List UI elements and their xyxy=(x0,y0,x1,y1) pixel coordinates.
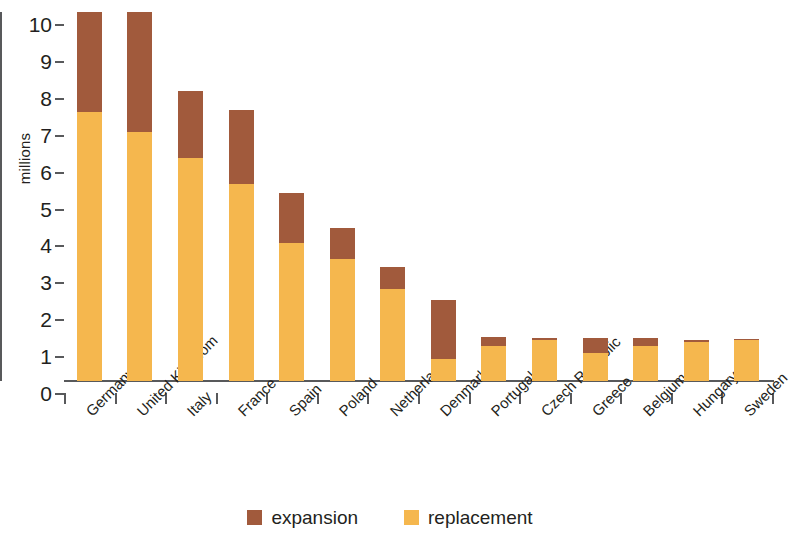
bar-poland[interactable] xyxy=(330,12,355,381)
bar-segment-replacement xyxy=(734,340,759,381)
y-axis-tick-label: 2 xyxy=(40,309,52,330)
y-axis-tick xyxy=(55,98,64,100)
y-axis-tick-label: 7 xyxy=(40,124,52,145)
bar-segment-expansion xyxy=(77,12,102,112)
y-axis-tick-label: 9 xyxy=(40,50,52,71)
legend-label-replacement: replacement xyxy=(428,508,533,527)
bar-portugal[interactable] xyxy=(481,12,506,381)
y-axis-tick xyxy=(55,319,64,321)
y-axis-tick-label: 0 xyxy=(40,383,52,404)
y-axis-tick xyxy=(55,172,64,174)
y-axis-tick xyxy=(55,24,64,26)
bar-segment-replacement xyxy=(77,112,102,381)
y-axis-tick-label: 4 xyxy=(40,235,52,256)
bar-segment-replacement xyxy=(178,158,203,381)
y-axis-line xyxy=(0,12,2,381)
bar-segment-replacement xyxy=(684,342,709,381)
x-axis-tick xyxy=(64,393,66,404)
y-axis-tick-label: 8 xyxy=(40,87,52,108)
bar-segment-expansion xyxy=(229,110,254,184)
bar-segment-expansion xyxy=(380,267,405,289)
x-axis-label-italy: Italy xyxy=(184,389,214,419)
legend-label-expansion: expansion xyxy=(271,508,358,527)
bar-segment-replacement xyxy=(380,289,405,381)
bar-segment-replacement xyxy=(532,340,557,381)
legend-swatch-expansion xyxy=(247,510,262,525)
bar-segment-replacement xyxy=(330,259,355,381)
y-axis-tick-label: 6 xyxy=(40,161,52,182)
y-axis-tick-label: 3 xyxy=(40,272,52,293)
bar-segment-expansion xyxy=(279,193,304,243)
bar-spain[interactable] xyxy=(279,12,304,381)
legend-item-expansion[interactable]: expansion xyxy=(247,508,358,527)
bar-segment-expansion xyxy=(532,338,557,341)
y-axis-tick xyxy=(55,135,64,137)
bar-united-kingdom[interactable] xyxy=(127,12,152,381)
bar-segment-expansion xyxy=(127,12,152,132)
y-axis-tick xyxy=(55,282,64,284)
plot-area: 012345678910GermanyUnited KingdomItalyFr… xyxy=(64,12,772,381)
chart-legend: expansionreplacement xyxy=(0,508,780,527)
bar-segment-replacement xyxy=(229,184,254,381)
bar-segment-replacement xyxy=(431,359,456,381)
y-axis-tick xyxy=(55,393,64,395)
bar-segment-replacement xyxy=(127,132,152,381)
y-axis-tick-label: 10 xyxy=(29,14,52,35)
bar-segment-expansion xyxy=(431,300,456,359)
legend-item-replacement[interactable]: replacement xyxy=(404,508,533,527)
bar-segment-expansion xyxy=(178,91,203,157)
bar-segment-expansion xyxy=(481,337,506,346)
bar-italy[interactable] xyxy=(178,12,203,381)
bar-segment-expansion xyxy=(633,338,658,346)
bar-hungary[interactable] xyxy=(684,12,709,381)
bar-segment-replacement xyxy=(481,346,506,381)
bar-germany[interactable] xyxy=(77,12,102,381)
bar-netherlands[interactable] xyxy=(380,12,405,381)
bar-segment-replacement xyxy=(633,346,658,381)
bar-greece[interactable] xyxy=(583,12,608,381)
bar-sweden[interactable] xyxy=(734,12,759,381)
bar-segment-expansion xyxy=(684,340,709,342)
y-axis-tick-label: 5 xyxy=(40,198,52,219)
legend-swatch-replacement xyxy=(404,510,419,525)
bar-belgium[interactable] xyxy=(633,12,658,381)
y-axis-tick xyxy=(55,209,64,211)
bar-segment-replacement xyxy=(279,243,304,381)
bar-france[interactable] xyxy=(229,12,254,381)
x-axis-tick xyxy=(216,393,218,404)
y-axis-tick-label: 1 xyxy=(40,346,52,367)
bar-denmark[interactable] xyxy=(431,12,456,381)
bar-segment-replacement xyxy=(583,353,608,381)
bar-segment-expansion xyxy=(583,338,608,353)
y-axis-title: millions xyxy=(16,109,33,209)
bar-czech-republic[interactable] xyxy=(532,12,557,381)
y-axis-tick xyxy=(55,356,64,358)
bar-segment-expansion xyxy=(330,228,355,259)
y-axis-tick xyxy=(55,245,64,247)
bar-segment-expansion xyxy=(734,339,759,340)
y-axis-tick xyxy=(55,61,64,63)
